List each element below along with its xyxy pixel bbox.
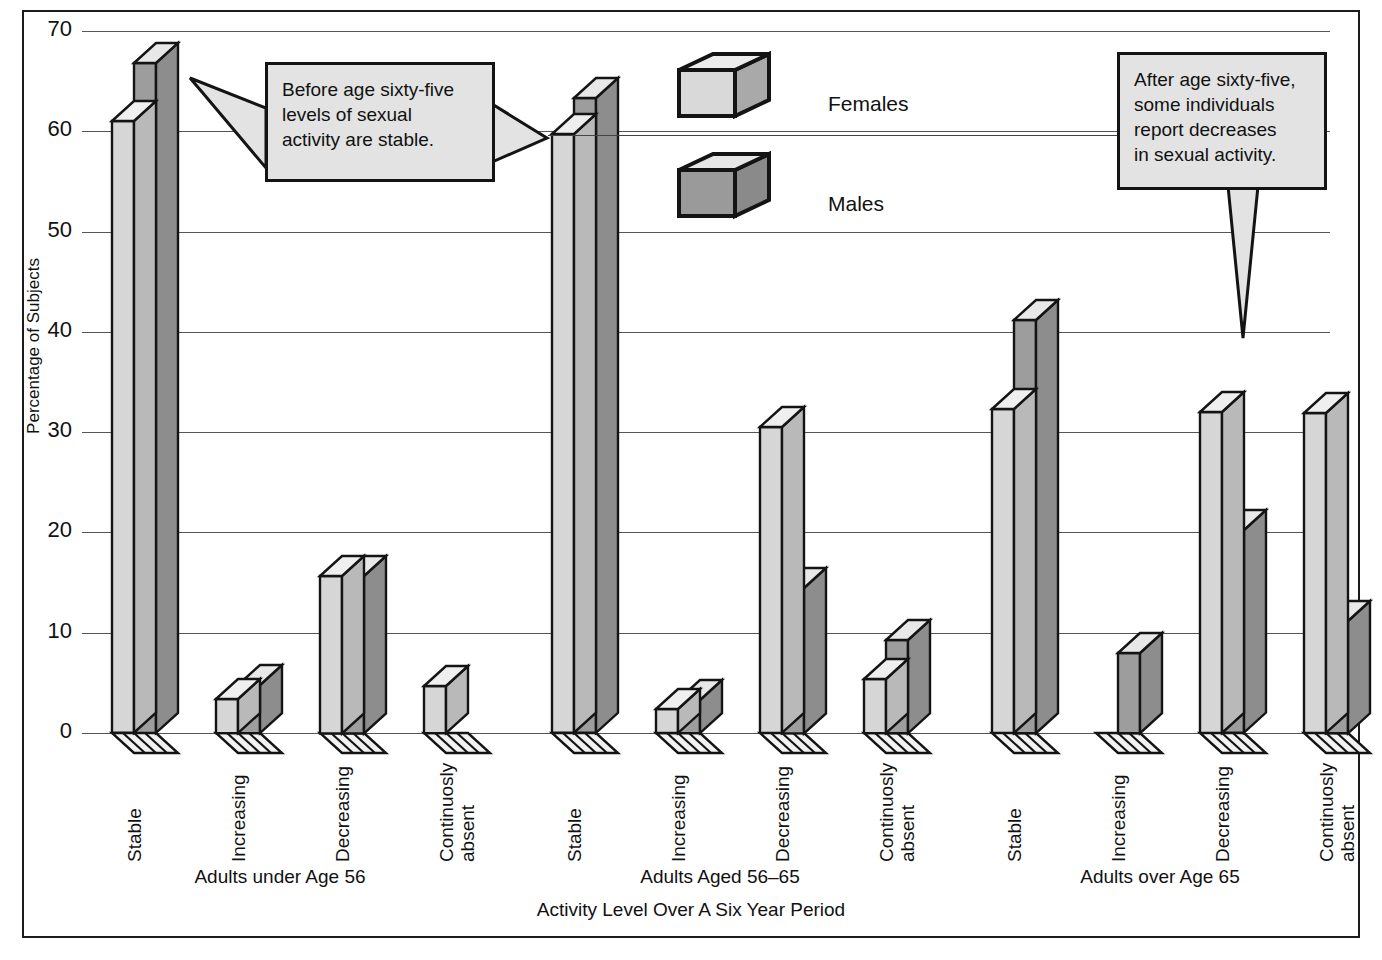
category-label: Continuosly absent	[436, 763, 479, 862]
bar-female-0-2	[320, 556, 370, 739]
gridline	[82, 31, 1330, 32]
bar-female-1-2	[760, 407, 810, 739]
y-tick-label: 20	[18, 517, 72, 543]
category-label: Increasing	[668, 774, 689, 862]
bar-female-0-0	[112, 101, 162, 739]
bar-female-2-2	[1200, 392, 1250, 739]
bar-female-0-3	[424, 666, 474, 739]
bar-female-1-3	[864, 659, 914, 739]
bar-female-1-1	[656, 689, 706, 739]
bar-male-2-1	[1118, 633, 1168, 739]
legend-label-females: Females	[828, 92, 909, 116]
y-tick-label: 10	[18, 618, 72, 644]
category-label: Stable	[124, 808, 145, 862]
bar-female-0-1	[216, 679, 266, 739]
y-tick-label: 60	[18, 116, 72, 142]
category-label: Decreasing	[1212, 766, 1233, 862]
category-label: Increasing	[1108, 774, 1129, 862]
category-label: Decreasing	[772, 766, 793, 862]
gridline	[82, 432, 1330, 433]
gridline	[82, 232, 1330, 233]
y-tick-label: 0	[18, 718, 72, 744]
x-axis-title: Activity Level Over A Six Year Period	[0, 899, 1382, 921]
legend-swatch-females	[675, 52, 795, 128]
category-label: Stable	[1004, 808, 1025, 862]
category-label: Stable	[564, 808, 585, 862]
legend-swatch-males	[675, 152, 795, 228]
category-label: Continuosly absent	[1316, 763, 1359, 862]
y-tick-label: 70	[18, 16, 72, 42]
group-label: Adults under Age 56	[72, 866, 488, 888]
gridline	[82, 332, 1330, 333]
chart-page: Percentage of Subjects 010203040506070 S…	[0, 0, 1382, 960]
bar-female-1-0	[552, 114, 602, 739]
y-tick-label: 30	[18, 417, 72, 443]
y-tick-label: 40	[18, 317, 72, 343]
y-tick-label: 50	[18, 217, 72, 243]
callout-left: Before age sixty-five levels of sexual a…	[265, 62, 495, 182]
category-label: Increasing	[228, 774, 249, 862]
legend-label-males: Males	[828, 192, 884, 216]
bar-female-2-0	[992, 389, 1042, 739]
legend-divider	[548, 135, 1148, 136]
category-label: Continuosly absent	[876, 763, 919, 862]
category-label: Decreasing	[332, 766, 353, 862]
bar-female-2-3	[1304, 393, 1354, 739]
group-label: Adults over Age 65	[952, 866, 1368, 888]
callout-right: After age sixty-five, some individuals r…	[1117, 52, 1327, 190]
gridline	[82, 532, 1330, 533]
group-label: Adults Aged 56–65	[512, 866, 928, 888]
